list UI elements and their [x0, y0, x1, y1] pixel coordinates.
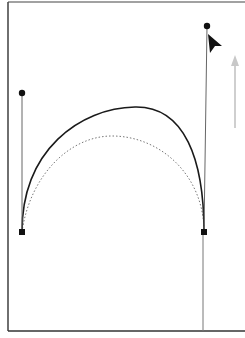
- artboard-frame: [8, 2, 245, 331]
- edited-curve[interactable]: [22, 107, 204, 232]
- right-direction-handle[interactable]: [204, 23, 210, 232]
- left-direction-handle[interactable]: [19, 90, 25, 232]
- right-handle-point[interactable]: [204, 23, 210, 29]
- left-anchor-point[interactable]: [19, 229, 25, 235]
- left-handle-point[interactable]: [19, 90, 25, 96]
- bezier-diagram-canvas: [0, 0, 245, 338]
- selection-cursor-icon: [208, 34, 222, 53]
- drag-direction-arrow-icon: [231, 55, 239, 128]
- right-anchor-point[interactable]: [201, 229, 207, 235]
- original-curve-dotted: [22, 136, 204, 232]
